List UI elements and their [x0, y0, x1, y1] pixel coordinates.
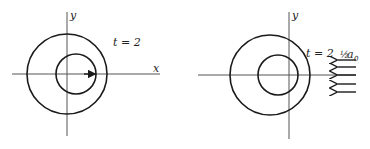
time-label: t = 2 [113, 36, 141, 49]
y-axis-label: y [291, 9, 299, 22]
x-axis-label: x [153, 62, 160, 75]
left-panel: y x t = 2 [12, 9, 160, 136]
field-label-symbol: a [347, 48, 354, 61]
field-label-subscript: 0 [354, 55, 359, 63]
y-axis-label: y [69, 9, 77, 22]
field-label: ½ a 0 [340, 48, 359, 63]
field-arrows [336, 60, 356, 92]
right-panel: y t = 2 ½ a 0 [198, 9, 359, 139]
diagram-canvas: y x t = 2 y t = 2 ½ a 0 [0, 0, 370, 149]
time-label: t = 2 [306, 47, 334, 60]
